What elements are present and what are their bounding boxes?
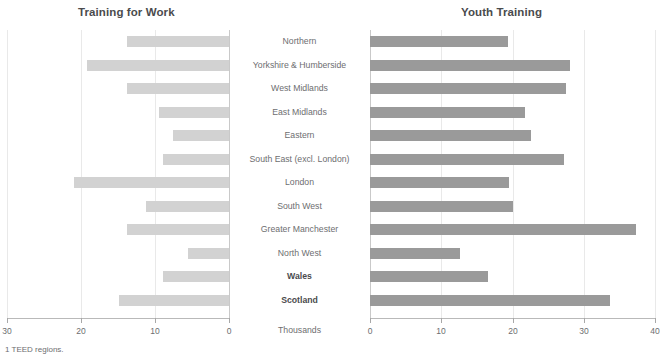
axis-tick xyxy=(441,318,442,323)
axis-tick xyxy=(370,318,371,323)
category-label: North West xyxy=(229,248,370,259)
axis-tick xyxy=(155,318,156,323)
category-label: East Midlands xyxy=(229,107,370,118)
axis-tick-label: 10 xyxy=(436,326,445,336)
bar xyxy=(370,154,564,165)
bar xyxy=(127,224,229,235)
bar xyxy=(127,83,229,94)
bar xyxy=(370,271,488,282)
category-label: West Midlands xyxy=(229,83,370,94)
axis-tick xyxy=(513,318,514,323)
gridline xyxy=(155,30,156,318)
bar xyxy=(173,130,229,141)
chart-title-right: Youth Training xyxy=(461,6,542,18)
bar xyxy=(370,224,636,235)
panel-training-for-work: 3020100 xyxy=(7,30,229,322)
chart-figure: Training for Work Youth Training 3020100… xyxy=(0,0,670,363)
category-label: Eastern xyxy=(229,130,370,141)
category-label: Greater Manchester xyxy=(229,224,370,235)
bar xyxy=(127,36,229,47)
axis-tick-label: 10 xyxy=(150,326,159,336)
bar xyxy=(163,154,229,165)
category-label: Yorkshire & Humberside xyxy=(229,60,370,71)
axis-tick-label: 20 xyxy=(76,326,85,336)
panel-youth-training: 010203040 xyxy=(370,30,655,322)
bar xyxy=(370,248,460,259)
chart-footnote: 1 TEED regions. xyxy=(5,345,64,354)
category-label: Wales xyxy=(229,271,370,282)
gridline xyxy=(655,30,656,318)
gridline xyxy=(584,30,585,318)
bar xyxy=(119,295,229,306)
category-label: London xyxy=(229,177,370,188)
bar xyxy=(159,107,229,118)
axis-tick xyxy=(81,318,82,323)
category-label: Northern xyxy=(229,36,370,47)
bar xyxy=(370,36,508,47)
bar xyxy=(87,60,229,71)
bar xyxy=(370,60,570,71)
bar xyxy=(74,177,229,188)
bar xyxy=(370,177,509,188)
axis-tick-label: 40 xyxy=(650,326,659,336)
axis-tick-label: 30 xyxy=(579,326,588,336)
bar xyxy=(370,295,610,306)
bar xyxy=(163,271,229,282)
x-axis-line-left xyxy=(7,318,229,319)
category-label: Scotland xyxy=(229,295,370,306)
axis-tick-label: 30 xyxy=(2,326,11,336)
gridline xyxy=(7,30,8,318)
gridline xyxy=(513,30,514,318)
bar xyxy=(370,83,566,94)
axis-tick xyxy=(584,318,585,323)
bar xyxy=(188,248,229,259)
category-label: South West xyxy=(229,201,370,212)
axis-unit-label: Thousands xyxy=(229,325,370,335)
gridline xyxy=(81,30,82,318)
category-label: South East (excl. London) xyxy=(229,154,370,165)
bar xyxy=(370,130,531,141)
bar xyxy=(146,201,229,212)
axis-tick-label: 20 xyxy=(508,326,517,336)
bar xyxy=(370,201,513,212)
axis-tick xyxy=(7,318,8,323)
chart-title-left: Training for Work xyxy=(78,6,175,18)
bar xyxy=(370,107,525,118)
category-labels: NorthernYorkshire & HumbersideWest Midla… xyxy=(229,30,370,322)
axis-tick xyxy=(655,318,656,323)
